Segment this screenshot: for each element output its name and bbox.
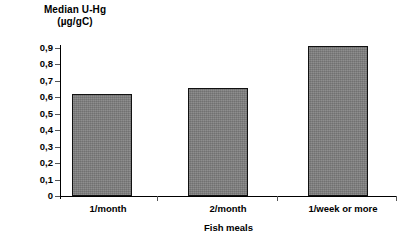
x-axis-category-label-1: 1/month — [58, 203, 158, 214]
bar-chart: Median U-Hg (µg/gC) 0,9 0,8 0,7 0,6 0,5 … — [0, 0, 411, 247]
y-axis-label-0.7: 0,7 — [23, 76, 53, 86]
y-axis-label-0.3: 0,3 — [23, 142, 53, 152]
y-axis-tick — [55, 196, 60, 197]
x-axis-category-label-3: 1/week or more — [288, 203, 398, 214]
plot-area — [60, 48, 396, 196]
chart-title-line-1: Median U-Hg — [10, 4, 140, 16]
y-axis-label-0.6: 0,6 — [23, 92, 53, 102]
x-axis-category-label-2: 2/month — [178, 203, 278, 214]
x-axis-tick — [157, 196, 158, 201]
y-axis-label-0.5: 0,5 — [23, 109, 53, 119]
x-axis-line — [60, 196, 397, 197]
bar-1-week-or-more[interactable] — [308, 46, 368, 196]
y-axis-label-0.1: 0,1 — [23, 175, 53, 185]
y-axis-label-0.4: 0,4 — [23, 125, 53, 135]
bar-1-month[interactable] — [72, 94, 132, 196]
bar-2-month[interactable] — [188, 88, 248, 196]
y-axis-label-0.9: 0,9 — [23, 43, 53, 53]
x-axis-tick — [396, 196, 397, 201]
y-axis-label-0.2: 0,2 — [23, 158, 53, 168]
y-axis-label-0.8: 0,8 — [23, 59, 53, 69]
x-axis-title: Fish meals — [60, 222, 397, 233]
chart-title-line-2: (µg/gC) — [10, 16, 140, 28]
x-axis-tick — [277, 196, 278, 201]
chart-title: Median U-Hg (µg/gC) — [10, 4, 140, 28]
y-axis-label-0: 0 — [23, 191, 53, 201]
